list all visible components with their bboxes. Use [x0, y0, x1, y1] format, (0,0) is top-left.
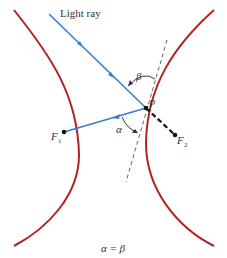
focus-f2-label: F — [176, 134, 184, 146]
equation-label: α = β — [101, 242, 126, 254]
point-p-dot — [144, 106, 149, 111]
arc-arrow-icon — [132, 129, 138, 133]
reflected-light-ray — [64, 108, 146, 132]
focus-f1-subscript: 1 — [58, 137, 62, 145]
hyperbola-left-branch — [14, 10, 79, 246]
arc-arrow-icon — [128, 80, 133, 86]
focus-f2-subscript: 2 — [184, 141, 188, 149]
hyperbola-reflection-diagram: Light ray β α P F 1 F 2 α = β — [0, 0, 227, 258]
point-p-label: P — [148, 98, 155, 109]
beta-label: β — [135, 70, 142, 82]
beta-angle-arc — [128, 76, 155, 86]
focus-f1-dot — [62, 130, 67, 135]
focus-f1-label: F — [50, 130, 58, 142]
light-ray-label: Light ray — [60, 7, 101, 19]
incoming-light-ray — [49, 14, 146, 108]
alpha-label: α — [116, 123, 122, 135]
hyperbola-right-branch — [146, 10, 214, 246]
